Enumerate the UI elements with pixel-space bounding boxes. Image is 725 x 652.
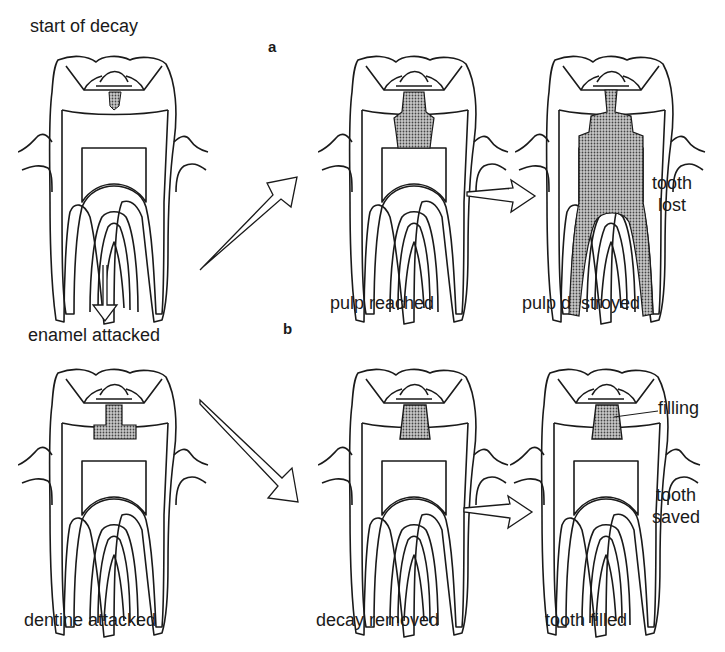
decay-to-pulp: [394, 92, 434, 148]
decay-spot: [109, 92, 121, 110]
tooth-enamel-attacked: [18, 365, 213, 645]
filling: [592, 405, 622, 439]
cavity-prepared: [400, 405, 430, 439]
decay-dentine: [94, 405, 136, 439]
arrow-diagonal-up-a: [195, 165, 305, 275]
arrow-down-to-enamel: [85, 265, 125, 323]
arrow-right-a: [465, 178, 537, 218]
section-label-b: b: [283, 320, 292, 337]
label-start-of-decay: start of decay: [30, 16, 138, 37]
tooth-filled: [510, 365, 705, 645]
section-label-a: a: [268, 38, 276, 55]
arrow-right-b: [462, 494, 534, 534]
arrow-diagonal-down-b: [198, 398, 308, 508]
tooth-pulp-destroyed: [515, 52, 710, 332]
